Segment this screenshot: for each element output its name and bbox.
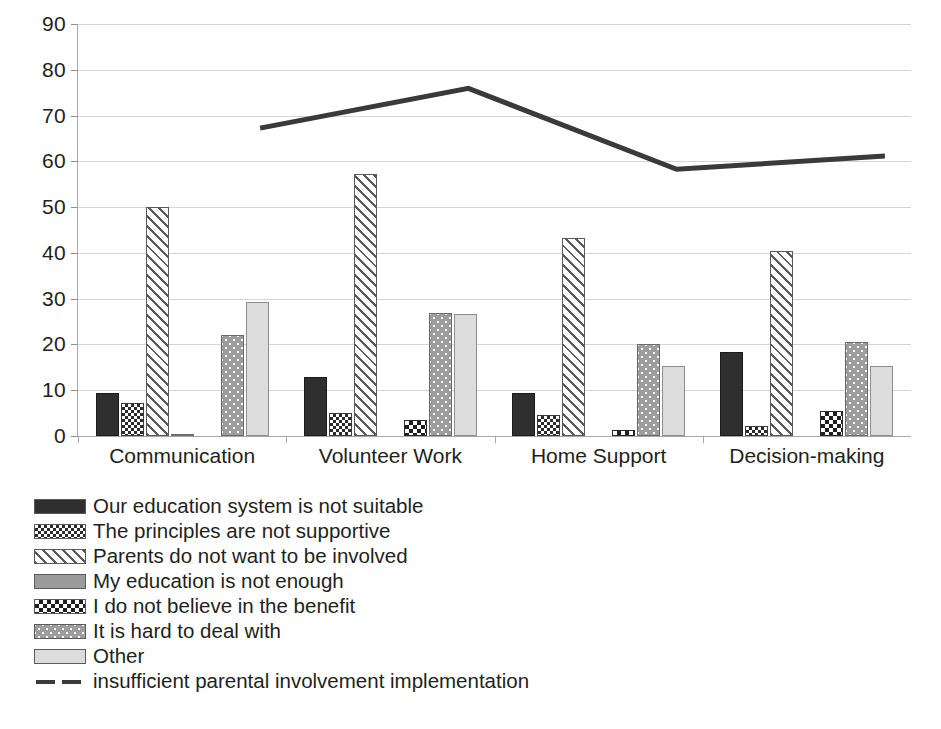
bar[interactable] bbox=[720, 352, 743, 436]
bar[interactable] bbox=[329, 413, 352, 436]
plot-wrapper: 0102030405060708090 CommunicationVolunte… bbox=[0, 0, 941, 470]
legend-line-swatch bbox=[34, 674, 86, 689]
legend-swatch bbox=[34, 499, 86, 514]
bar[interactable] bbox=[146, 207, 169, 436]
legend-swatch bbox=[34, 549, 86, 564]
legend-label: Our education system is not suitable bbox=[93, 496, 423, 517]
y-tick-label: 10 bbox=[42, 378, 66, 402]
bar-groups bbox=[78, 24, 911, 436]
bar[interactable] bbox=[612, 430, 635, 436]
x-axis-category-label: Communication bbox=[78, 444, 286, 468]
y-tick-label: 0 bbox=[54, 424, 66, 448]
legend-dash-segment bbox=[36, 680, 55, 684]
bar[interactable] bbox=[221, 335, 244, 436]
legend-label: Parents do not want to be involved bbox=[93, 546, 408, 567]
legend-item[interactable]: Other bbox=[34, 644, 914, 669]
y-tick-label: 20 bbox=[42, 332, 66, 356]
chart-legend: Our education system is not suitableThe … bbox=[34, 494, 914, 694]
bar[interactable] bbox=[845, 342, 868, 436]
bar[interactable] bbox=[171, 434, 194, 436]
y-tick-label: 80 bbox=[42, 58, 66, 82]
bar[interactable] bbox=[637, 344, 660, 436]
y-tick-mark bbox=[71, 116, 78, 117]
bar-group bbox=[78, 24, 286, 436]
bar[interactable] bbox=[820, 411, 843, 436]
bar[interactable] bbox=[562, 238, 585, 436]
bar[interactable] bbox=[121, 403, 144, 436]
bar[interactable] bbox=[454, 314, 477, 436]
y-tick-label: 70 bbox=[42, 104, 66, 128]
plot-area bbox=[78, 24, 911, 436]
y-tick-mark bbox=[71, 299, 78, 300]
x-tick-mark bbox=[495, 436, 496, 443]
legend-swatch bbox=[34, 524, 86, 539]
bar[interactable] bbox=[662, 366, 685, 436]
legend-swatch bbox=[34, 624, 86, 639]
y-tick-mark bbox=[71, 436, 78, 437]
legend-item[interactable]: The principles are not supportive bbox=[34, 519, 914, 544]
legend-item[interactable]: It is hard to deal with bbox=[34, 619, 914, 644]
y-tick-mark bbox=[71, 161, 78, 162]
bar[interactable] bbox=[537, 415, 560, 436]
legend-label: insufficient parental involvement implem… bbox=[93, 671, 529, 692]
y-tick-label: 30 bbox=[42, 287, 66, 311]
legend-item[interactable]: My education is not enough bbox=[34, 569, 914, 594]
y-tick-mark bbox=[71, 70, 78, 71]
legend-swatch bbox=[34, 599, 86, 614]
bar[interactable] bbox=[304, 377, 327, 436]
y-tick-mark bbox=[71, 24, 78, 25]
legend-item[interactable]: insufficient parental involvement implem… bbox=[34, 669, 914, 694]
bar[interactable] bbox=[246, 302, 269, 436]
y-tick-mark bbox=[71, 344, 78, 345]
y-tick-label: 40 bbox=[42, 241, 66, 265]
x-axis-category-label: Home Support bbox=[495, 444, 703, 468]
y-axis: 0102030405060708090 bbox=[0, 0, 74, 470]
x-axis-category-label: Volunteer Work bbox=[286, 444, 494, 468]
bar[interactable] bbox=[96, 393, 119, 436]
bar[interactable] bbox=[354, 174, 377, 436]
bar[interactable] bbox=[512, 393, 535, 436]
legend-item[interactable]: Our education system is not suitable bbox=[34, 494, 914, 519]
x-axis-labels: CommunicationVolunteer WorkHome SupportD… bbox=[78, 444, 911, 468]
bar[interactable] bbox=[745, 426, 768, 436]
bar-group bbox=[703, 24, 911, 436]
bar[interactable] bbox=[404, 420, 427, 436]
y-tick-label: 50 bbox=[42, 195, 66, 219]
x-tick-mark bbox=[703, 436, 704, 443]
legend-item[interactable]: I do not believe in the benefit bbox=[34, 594, 914, 619]
legend-label: Other bbox=[93, 646, 144, 667]
bar-group bbox=[286, 24, 494, 436]
legend-label: It is hard to deal with bbox=[93, 621, 281, 642]
legend-label: The principles are not supportive bbox=[93, 521, 390, 542]
legend-swatch bbox=[34, 574, 86, 589]
legend-swatch bbox=[34, 649, 86, 664]
y-tick-label: 60 bbox=[42, 149, 66, 173]
bar[interactable] bbox=[870, 366, 893, 436]
legend-label: My education is not enough bbox=[93, 571, 344, 592]
legend-label: I do not believe in the benefit bbox=[93, 596, 355, 617]
bar[interactable] bbox=[770, 251, 793, 436]
bar[interactable] bbox=[429, 313, 452, 436]
legend-item[interactable]: Parents do not want to be involved bbox=[34, 544, 914, 569]
chart-container: 0102030405060708090 CommunicationVolunte… bbox=[0, 0, 941, 729]
y-tick-label: 90 bbox=[42, 12, 66, 36]
x-tick-mark bbox=[286, 436, 287, 443]
y-tick-mark bbox=[71, 253, 78, 254]
y-tick-mark bbox=[71, 390, 78, 391]
x-axis-category-label: Decision-making bbox=[703, 444, 911, 468]
legend-dash-segment bbox=[62, 680, 81, 684]
y-tick-mark bbox=[71, 207, 78, 208]
x-tick-mark bbox=[78, 436, 79, 443]
bar-group bbox=[495, 24, 703, 436]
